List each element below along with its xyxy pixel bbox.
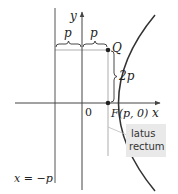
brace-right-label: p: [90, 26, 98, 40]
x-axis-label: x: [152, 106, 159, 120]
point-q: [106, 48, 111, 53]
focus-point: [106, 101, 111, 106]
directrix-label: x = −p: [14, 172, 53, 185]
brace-right-p: [83, 41, 107, 47]
origin-label: 0: [85, 106, 92, 119]
callout-line2: rectum: [129, 141, 165, 152]
callout-line1: latus: [131, 128, 155, 139]
brace-2p-label: 2p: [118, 69, 135, 83]
y-axis-label: y: [69, 9, 77, 23]
brace-vertical-2p: [111, 51, 117, 102]
callout-leader-line: [108, 127, 127, 135]
q-label: Q: [112, 41, 122, 55]
focus-label: F(p, 0): [110, 107, 148, 120]
brace-left-p: [56, 41, 81, 47]
parabola-diagram: latus rectum y x 0 F(p, 0) Q p p 2p x = …: [0, 0, 178, 194]
brace-left-label: p: [64, 26, 72, 40]
